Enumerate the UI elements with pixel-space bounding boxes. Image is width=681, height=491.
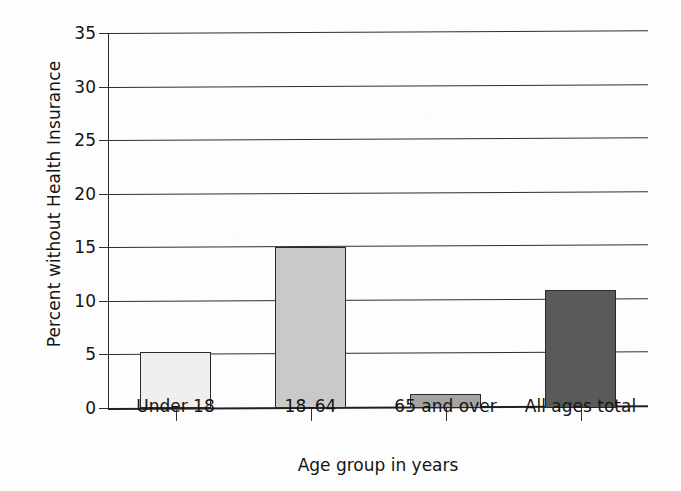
y-tick-label-15: 15 xyxy=(36,239,96,256)
x-tick-label: 18–64 xyxy=(285,396,337,416)
plot-area: 05101520253035 xyxy=(108,33,648,408)
x-tick-label: All ages total xyxy=(525,396,636,416)
y-tick-0 xyxy=(99,408,109,409)
x-axis-title: Age group in years xyxy=(108,455,648,475)
y-axis-line xyxy=(108,33,109,408)
gridline-30 xyxy=(108,84,648,88)
y-tick-15 xyxy=(99,247,109,248)
gridline-20 xyxy=(108,191,648,195)
y-tick-10 xyxy=(99,301,109,302)
y-tick-label-0: 0 xyxy=(36,400,96,417)
y-tick-label-25: 25 xyxy=(36,132,96,149)
bar xyxy=(545,290,615,408)
bar xyxy=(275,247,345,408)
y-tick-30 xyxy=(99,87,109,88)
bar-chart-figure: Percent without Health Insurance 0510152… xyxy=(0,0,681,491)
y-tick-label-35: 35 xyxy=(36,25,96,42)
y-tick-35 xyxy=(99,33,109,34)
y-tick-20 xyxy=(99,194,109,195)
y-tick-label-30: 30 xyxy=(36,78,96,95)
y-tick-label-5: 5 xyxy=(36,346,96,363)
y-tick-label-10: 10 xyxy=(36,292,96,309)
y-tick-25 xyxy=(99,140,109,141)
y-tick-label-20: 20 xyxy=(36,185,96,202)
x-tick-label: 65 and over xyxy=(394,396,496,416)
y-tick-5 xyxy=(99,354,109,355)
gridline-25 xyxy=(108,138,648,142)
gridline-15 xyxy=(108,245,648,249)
x-tick-label: Under 18 xyxy=(136,396,215,416)
gridline-35 xyxy=(108,30,648,34)
